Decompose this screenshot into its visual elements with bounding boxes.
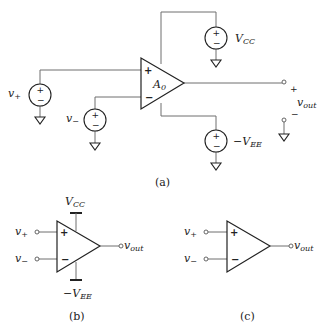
source-plus-sign: +	[213, 28, 221, 38]
vout-label: vout	[297, 96, 317, 110]
vplus-label: v+	[8, 87, 21, 101]
vout-minus-sign: −	[291, 109, 299, 119]
vout-minus-terminal	[282, 118, 286, 122]
ground-icon	[211, 163, 221, 170]
plus-input-sign: +	[144, 65, 152, 76]
circuit-c: v+ v− + − vout (c)	[184, 221, 314, 323]
vout-label: vout	[124, 239, 144, 253]
minus-input-sign: −	[145, 92, 153, 103]
vee-wire	[161, 103, 216, 130]
vminus-terminal	[35, 257, 39, 261]
circuit-b: VCC −VEE v+ v− + − vout (b)	[15, 195, 144, 323]
vee-label: −VEE	[233, 135, 262, 149]
caption-a: (a)	[155, 176, 170, 189]
source-minus-sign: −	[213, 38, 221, 48]
plus-input-sign: +	[230, 227, 238, 238]
source-minus-sign: −	[213, 141, 221, 151]
vminus-label: v−	[184, 252, 197, 266]
vplus-terminal	[35, 230, 39, 234]
source-plus-sign: +	[37, 85, 45, 95]
source-plus-sign: +	[213, 131, 221, 141]
minus-input-sign: −	[61, 254, 69, 265]
source-minus-sign: −	[37, 95, 45, 105]
vplus-label: v+	[184, 225, 197, 239]
vcc-label: VCC	[235, 32, 255, 46]
vout-terminal	[119, 244, 123, 248]
vplus-wire	[40, 70, 141, 84]
vplus-label: v+	[15, 225, 28, 239]
vminus-label: v−	[15, 252, 28, 266]
caption-c: (c)	[240, 310, 255, 323]
ground-icon	[279, 134, 289, 141]
caption-b: (b)	[69, 310, 85, 323]
vcc-label: VCC	[65, 195, 85, 209]
ground-icon	[211, 60, 221, 67]
plus-input-sign: +	[60, 227, 68, 238]
source-plus-sign: +	[92, 110, 100, 120]
vout-label: vout	[294, 239, 314, 253]
source-minus-sign: −	[92, 120, 100, 130]
vminus-label: v−	[66, 112, 79, 126]
vminus-wire	[95, 97, 141, 109]
vee-label: −VEE	[63, 287, 92, 301]
vout-plus-terminal	[282, 80, 286, 84]
ground-icon	[90, 143, 100, 150]
minus-input-sign: −	[231, 254, 239, 265]
vplus-terminal	[204, 230, 208, 234]
opamp-figure: + − A0 + − VCC + − −VEE + − v+ + − v− + …	[0, 0, 325, 333]
vminus-terminal	[204, 257, 208, 261]
circuit-a: + − A0 + − VCC + − −VEE + − v+ + − v− + …	[8, 12, 317, 189]
vout-plus-sign: +	[290, 84, 298, 94]
ground-icon	[35, 117, 45, 124]
vout-terminal	[289, 244, 293, 248]
